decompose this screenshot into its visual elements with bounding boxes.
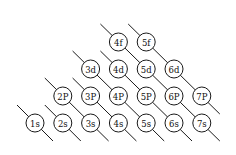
diagonal-line <box>45 78 109 141</box>
orbital-label: 4f <box>114 38 123 48</box>
orbital-label: 6P <box>168 92 179 102</box>
orbital-label: 3d <box>85 65 96 75</box>
orbital-5s: 5s <box>137 114 155 132</box>
orbital-4d: 4d <box>109 60 127 78</box>
orbital-6s: 6s <box>165 114 183 132</box>
orbital-label: 6s <box>169 119 179 129</box>
aufbau-diagram: 1s2s3s4s5s6s7s2P3P4P5P6P7P3d4d5d6d4f5f <box>0 0 236 155</box>
orbital-3d: 3d <box>82 60 100 78</box>
orbital-label: 3s <box>86 119 96 129</box>
orbital-label: 5f <box>142 38 151 48</box>
orbital-2p: 2P <box>54 87 72 105</box>
orbital-4f: 4f <box>109 33 127 51</box>
orbital-6p: 6P <box>165 87 183 105</box>
orbital-label: 4d <box>113 65 124 75</box>
orbital-5f: 5f <box>137 33 155 51</box>
orbital-1s: 1s <box>26 114 44 132</box>
orbitals: 1s2s3s4s5s6s7s2P3P4P5P6P7P3d4d5d6d4f5f <box>26 33 211 132</box>
orbital-5p: 5P <box>137 87 155 105</box>
orbital-label: 7s <box>197 119 207 129</box>
orbital-3p: 3P <box>82 87 100 105</box>
orbital-label: 1s <box>30 119 40 129</box>
orbital-7s: 7s <box>193 114 211 132</box>
orbital-label: 2s <box>58 119 68 129</box>
orbital-2s: 2s <box>54 114 72 132</box>
orbital-3s: 3s <box>82 114 100 132</box>
diagonal-line <box>73 78 137 141</box>
orbital-7p: 7P <box>193 87 211 105</box>
orbital-4p: 4P <box>109 87 127 105</box>
orbital-label: 5d <box>141 65 152 75</box>
orbital-label: 4s <box>114 119 124 129</box>
orbital-4s: 4s <box>109 114 127 132</box>
orbital-6d: 6d <box>165 60 183 78</box>
orbital-label: 6d <box>169 65 180 75</box>
orbital-5d: 5d <box>137 60 155 78</box>
orbital-label: 4P <box>113 92 124 102</box>
orbital-label: 5P <box>141 92 152 102</box>
orbital-label: 2P <box>57 92 68 102</box>
orbital-label: 3P <box>85 92 96 102</box>
orbital-label: 5s <box>141 119 151 129</box>
orbital-label: 7P <box>196 92 207 102</box>
